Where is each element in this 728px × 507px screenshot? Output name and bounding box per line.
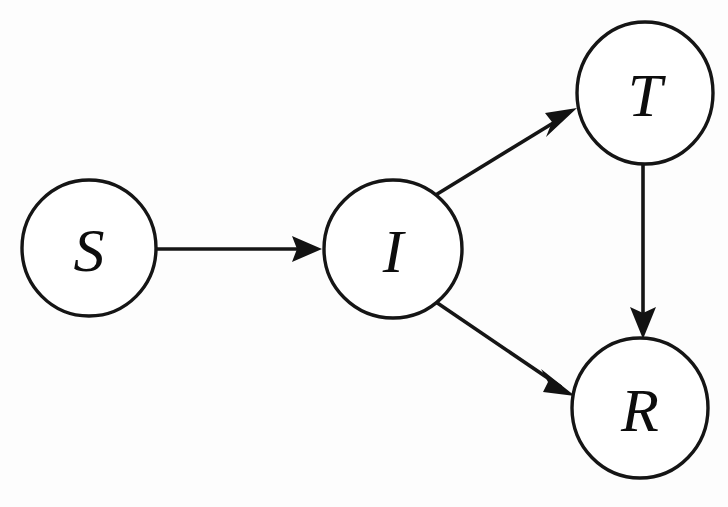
edge-i-to-r[interactable]: [433, 300, 575, 396]
node-s-label: S: [74, 216, 105, 284]
edge-t-to-r[interactable]: [630, 164, 656, 339]
edge-i-to-t-arrowhead: [545, 108, 577, 137]
edge-i-to-r-arrowhead: [541, 369, 575, 396]
figure-caption-partial: [0, 494, 728, 507]
edge-i-to-t[interactable]: [434, 108, 577, 196]
figure-canvas: S I T R: [0, 0, 728, 507]
edge-s-to-i[interactable]: [157, 236, 322, 262]
node-r-label: R: [620, 376, 659, 444]
edge-i-to-t-line: [434, 117, 563, 196]
node-t-label: T: [628, 61, 667, 129]
node-s[interactable]: S: [22, 180, 156, 316]
node-r[interactable]: R: [572, 338, 708, 478]
node-i-label: I: [382, 217, 407, 285]
node-t[interactable]: T: [577, 22, 713, 164]
edge-i-to-r-line: [433, 300, 561, 387]
sitr-diagram: S I T R: [0, 0, 728, 507]
node-i[interactable]: I: [324, 180, 462, 318]
